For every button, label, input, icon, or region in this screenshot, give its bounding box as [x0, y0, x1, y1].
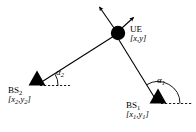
- line-bs2-to-ue: [40, 36, 114, 83]
- ue-label-group: UE [x,y]: [130, 25, 146, 43]
- bs1-label-subscript: 1: [137, 104, 140, 111]
- bs1-coordinate-label: [x1,y1]: [126, 110, 149, 119]
- dashed-reference-lines: [40, 86, 192, 104]
- alpha2-subscript: 2: [61, 71, 64, 78]
- bs1-coord-x-sub: 1: [133, 113, 136, 120]
- angle-label-alpha2: α2: [56, 68, 64, 77]
- bs2-node-triangle: [29, 71, 46, 86]
- bs2-coord-x-sub: 2: [15, 98, 18, 105]
- bs1-coord-y-sub: 1: [142, 113, 145, 120]
- bs2-coord-y-sub: 2: [24, 98, 27, 105]
- line-bs1-to-ue: [119, 40, 156, 100]
- bs2-label-subscript: 2: [19, 89, 22, 96]
- diagram-vector-layer: [0, 0, 196, 132]
- angle-label-alpha1: α1: [157, 76, 165, 85]
- bs2-label-group: BS2 [x2,y2]: [8, 86, 31, 104]
- figure-canvas: UE [x,y] BS2 [x2,y2] BS1 [x1,y1] α2 α1: [0, 0, 196, 132]
- bs1-node-triangle: [150, 89, 167, 104]
- ue-node-circle: [111, 26, 125, 40]
- alpha1-subscript: 1: [162, 79, 165, 86]
- ue-velocity-arrow-upleft: [100, 7, 115, 28]
- ue-coordinate-label: [x,y]: [130, 34, 146, 43]
- bs1-label-group: BS1 [x1,y1]: [126, 101, 149, 119]
- ue-direction-arrows: [100, 7, 134, 28]
- bs2-coordinate-label: [x2,y2]: [8, 95, 31, 104]
